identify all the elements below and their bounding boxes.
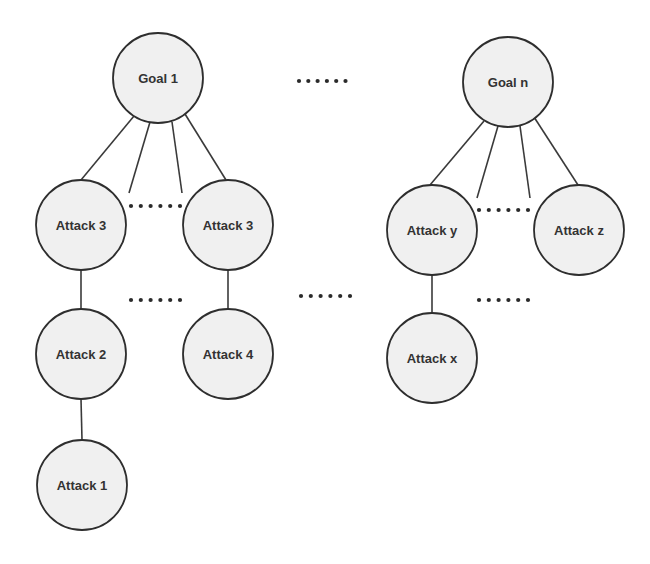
edge-goaln-elided [477, 126, 498, 198]
ellipsis-dot [129, 204, 133, 208]
ellipsis-dot [477, 208, 481, 212]
node-attack2: Attack 2 [36, 309, 126, 399]
ellipsis-dot [299, 294, 303, 298]
edge-attack2-attack1 [81, 399, 82, 440]
node-attackx: Attack x [387, 313, 477, 403]
ellipsis-dot [497, 208, 501, 212]
ellipsis-dot [129, 298, 133, 302]
ellipsis-dot [297, 79, 301, 83]
node-attacky: Attack y [387, 185, 477, 275]
ellipsis-dot [487, 208, 491, 212]
node-attack3a: Attack 3 [36, 180, 126, 270]
ellipsis-dot [158, 298, 162, 302]
ellipsis-dot [319, 294, 323, 298]
ellipsis-dot [526, 298, 530, 302]
edge-goal1-elided [129, 122, 150, 193]
node-label: Attack 3 [203, 218, 254, 233]
node-label: Attack 1 [57, 478, 108, 493]
ellipsis-between-goals [297, 79, 348, 83]
node-attackz: Attack z [534, 185, 624, 275]
ellipsis-dot [178, 298, 182, 302]
ellipsis-dot [334, 79, 338, 83]
node-label: Attack x [407, 351, 458, 366]
edges-layer [81, 114, 578, 440]
ellipsis-dot [516, 208, 520, 212]
node-label: Attack 3 [56, 218, 107, 233]
node-label: Attack z [554, 223, 604, 238]
node-goaln: Goal n [463, 37, 553, 127]
ellipsis-dot [328, 294, 332, 298]
node-attack4: Attack 4 [183, 309, 273, 399]
node-attack1: Attack 1 [37, 440, 127, 530]
node-label: Attack 2 [56, 347, 107, 362]
node-label: Goal 1 [138, 71, 178, 86]
edge-goal1-elided [172, 122, 182, 193]
ellipsis-dot [343, 79, 347, 83]
edge-goal1-attack3b [185, 114, 226, 180]
ellipsis-dot [338, 294, 342, 298]
ellipsis-dot [168, 298, 172, 302]
ellipsis-dot [149, 204, 153, 208]
ellipsis-dot [497, 298, 501, 302]
ellipsis-between-goal1-children [129, 204, 182, 208]
ellipsis-dot [325, 79, 329, 83]
node-attack3b: Attack 3 [183, 180, 273, 270]
ellipsis-between-goaln-level2 [477, 298, 530, 302]
ellipsis-dot [506, 298, 510, 302]
ellipsis-between-goaln-children [477, 208, 530, 212]
edge-goaln-attackz [534, 117, 578, 185]
attack-tree-diagram: Goal 1Goal nAttack 3Attack 3Attack 2Atta… [0, 0, 650, 564]
ellipsis-dot [477, 298, 481, 302]
node-label: Attack 4 [203, 347, 254, 362]
ellipsis-dot [526, 208, 530, 212]
edge-goaln-attacky [430, 121, 484, 185]
ellipsis-dot [309, 294, 313, 298]
ellipsis-dot [149, 298, 153, 302]
ellipsis-dot [139, 204, 143, 208]
edge-goaln-elided [520, 126, 530, 198]
ellipsis-dot [306, 79, 310, 83]
ellipsis-dot [506, 208, 510, 212]
ellipsis-dot [168, 204, 172, 208]
node-goal1: Goal 1 [113, 33, 203, 123]
ellipsis-between-goal1-level2 [129, 298, 182, 302]
ellipsis-dot [516, 298, 520, 302]
edge-goal1-attack3a [81, 116, 134, 180]
nodes-layer: Goal 1Goal nAttack 3Attack 3Attack 2Atta… [36, 33, 624, 530]
ellipsis-dot [487, 298, 491, 302]
ellipsis-dot [158, 204, 162, 208]
ellipsis-dot [139, 298, 143, 302]
ellipsis-dot [348, 294, 352, 298]
ellipsis-between-trees [299, 294, 352, 298]
ellipsis-dot [316, 79, 320, 83]
node-label: Attack y [407, 223, 458, 238]
ellipsis-layer [129, 79, 530, 302]
ellipsis-dot [178, 204, 182, 208]
node-label: Goal n [488, 75, 529, 90]
